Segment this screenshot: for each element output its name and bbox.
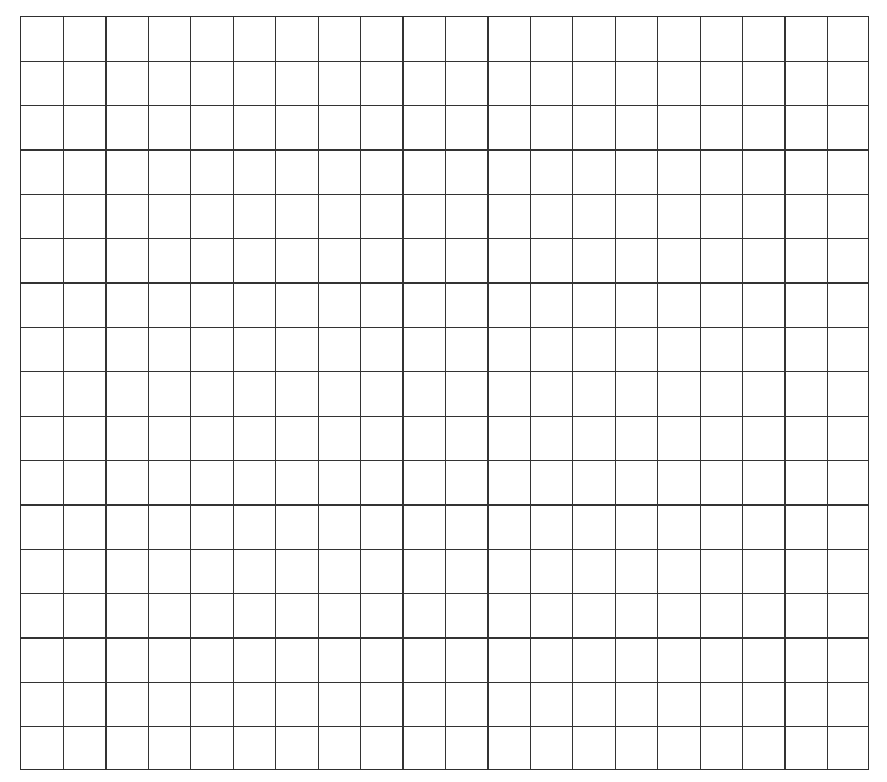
grid-horizontal-line <box>21 593 868 594</box>
grid-vertical-line <box>700 17 701 769</box>
grid-vertical-line <box>190 17 191 769</box>
grid-horizontal-line <box>21 194 868 195</box>
grid-vertical-line <box>105 17 106 769</box>
grid-horizontal-line <box>21 282 868 283</box>
grid-vertical-line <box>360 17 361 769</box>
grid-vertical-line <box>275 17 276 769</box>
grid-horizontal-line <box>21 105 868 106</box>
grid-horizontal-line <box>21 504 868 505</box>
grid-vertical-line <box>784 17 785 769</box>
grid-horizontal-line <box>21 371 868 372</box>
grid-vertical-line <box>402 17 403 769</box>
grid-vertical-line <box>233 17 234 769</box>
grid-vertical-line <box>487 17 488 769</box>
grid-vertical-line <box>148 17 149 769</box>
grid-horizontal-line <box>21 416 868 417</box>
grid-horizontal-line <box>21 726 868 727</box>
grid-vertical-line <box>742 17 743 769</box>
grid-vertical-line <box>530 17 531 769</box>
grid-horizontal-line <box>21 460 868 461</box>
grid-horizontal-line <box>21 327 868 328</box>
grid-horizontal-line <box>21 549 868 550</box>
grid-vertical-line <box>657 17 658 769</box>
grid-horizontal-line <box>21 61 868 62</box>
grid-horizontal-line <box>21 682 868 683</box>
grid-vertical-line <box>615 17 616 769</box>
grid-horizontal-line <box>21 238 868 239</box>
grid-vertical-line <box>63 17 64 769</box>
grid-horizontal-line <box>21 149 868 150</box>
grid-vertical-line <box>572 17 573 769</box>
grid-vertical-line <box>318 17 319 769</box>
grid-vertical-line <box>445 17 446 769</box>
grid-vertical-line <box>827 17 828 769</box>
grid-paper <box>20 16 869 770</box>
grid-horizontal-line <box>21 637 868 638</box>
